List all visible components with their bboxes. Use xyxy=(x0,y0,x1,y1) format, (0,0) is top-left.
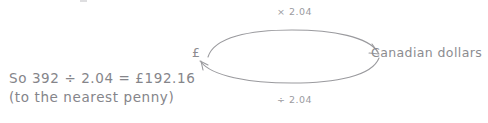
divide-arrow-path xyxy=(201,58,379,83)
diagram-canvas: £ Canadian dollars × 2.04 ÷ 2.04 So 392 … xyxy=(0,0,488,123)
divide-arrowhead xyxy=(200,61,208,70)
working-line-rounding-note: (to the nearest penny) xyxy=(9,89,174,105)
node-label-pounds: £ xyxy=(192,45,200,60)
cropped-text-artifact xyxy=(80,0,87,2)
node-label-canadian-dollars: Canadian dollars xyxy=(371,45,482,60)
working-line-calculation: So 392 ÷ 2.04 = £192.16 xyxy=(9,70,195,86)
arrow-label-multiply: × 2.04 xyxy=(277,6,312,17)
arrow-label-divide: ÷ 2.04 xyxy=(277,94,312,105)
multiply-arrow-path xyxy=(208,30,378,57)
